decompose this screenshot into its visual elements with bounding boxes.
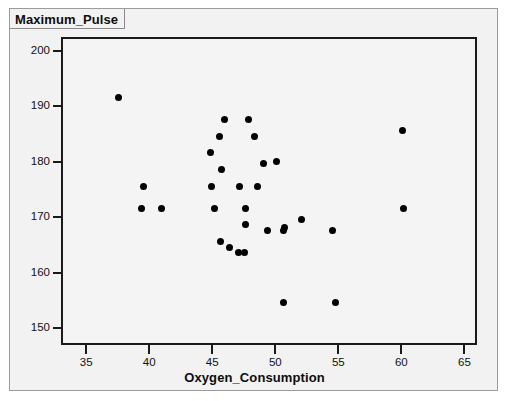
y-axis-tick-label: 180 bbox=[8, 156, 50, 168]
y-axis-tick-label: 150 bbox=[8, 322, 50, 334]
scatter-point bbox=[207, 149, 214, 156]
scatter-points-layer bbox=[63, 39, 475, 343]
x-axis-tick bbox=[85, 345, 87, 354]
chart-title-box: Maximum_Pulse bbox=[10, 9, 125, 29]
scatter-point bbox=[264, 227, 271, 234]
scatter-point bbox=[208, 183, 215, 190]
scatter-point bbox=[298, 216, 305, 223]
scatter-point bbox=[226, 244, 233, 251]
x-axis-tick-label: 40 bbox=[129, 357, 169, 369]
y-axis-tick bbox=[53, 50, 61, 52]
y-axis-tick bbox=[53, 272, 61, 274]
x-axis-tick-label: 65 bbox=[444, 357, 484, 369]
scatter-point bbox=[273, 158, 280, 165]
scatter-point bbox=[217, 238, 224, 245]
scatter-point bbox=[332, 299, 339, 306]
scatter-point bbox=[260, 160, 267, 167]
page-title: Maximum_Pulse bbox=[15, 13, 118, 26]
scatter-point bbox=[254, 183, 261, 190]
scatter-point bbox=[211, 205, 218, 212]
x-axis-tick bbox=[211, 345, 213, 354]
y-axis-tick bbox=[53, 327, 61, 329]
scatter-point bbox=[329, 227, 336, 234]
scatter-point bbox=[242, 221, 249, 228]
scatter-point bbox=[236, 183, 243, 190]
scatter-point bbox=[399, 127, 406, 134]
x-axis-title: Oxygen_Consumption bbox=[0, 370, 509, 385]
y-axis-tick bbox=[53, 161, 61, 163]
scatter-point bbox=[221, 116, 228, 123]
x-axis-tick-label: 45 bbox=[192, 357, 232, 369]
y-axis-tick-label: 170 bbox=[8, 211, 50, 223]
scatter-point bbox=[281, 224, 288, 231]
y-axis-tick bbox=[53, 105, 61, 107]
scatter-point bbox=[245, 116, 252, 123]
screenshot-root: Maximum_Pulse 150160170180190200 3540455… bbox=[0, 0, 509, 401]
x-axis-tick-label: 60 bbox=[381, 357, 421, 369]
x-axis-tick-label: 50 bbox=[255, 357, 295, 369]
x-axis-tick bbox=[148, 345, 150, 354]
x-axis-tick-label: 55 bbox=[318, 357, 358, 369]
scatter-point bbox=[241, 249, 248, 256]
plot-area bbox=[61, 37, 477, 345]
scatter-point bbox=[251, 133, 258, 140]
y-axis-tick-label: 190 bbox=[8, 100, 50, 112]
x-axis-tick bbox=[400, 345, 402, 354]
scatter-point bbox=[242, 205, 249, 212]
scatter-point bbox=[138, 205, 145, 212]
x-axis-tick-label: 35 bbox=[66, 357, 106, 369]
scatter-point bbox=[218, 166, 225, 173]
y-axis-tick-label: 200 bbox=[8, 45, 50, 57]
scatter-point bbox=[216, 133, 223, 140]
y-axis-tick bbox=[53, 216, 61, 218]
scatter-point bbox=[140, 183, 147, 190]
y-axis-tick-label: 160 bbox=[8, 267, 50, 279]
x-axis-tick bbox=[463, 345, 465, 354]
scatter-point bbox=[115, 94, 122, 101]
scatter-point bbox=[158, 205, 165, 212]
x-axis-tick bbox=[274, 345, 276, 354]
x-axis-tick bbox=[337, 345, 339, 354]
scatter-point bbox=[400, 205, 407, 212]
scatter-point bbox=[280, 299, 287, 306]
